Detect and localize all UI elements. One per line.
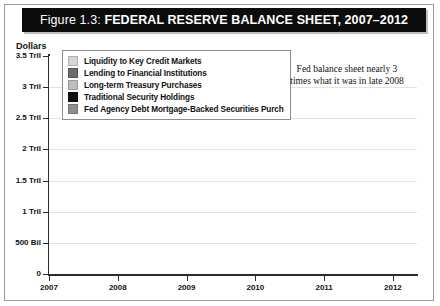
x-axis-label: 2010 — [246, 283, 264, 292]
x-axis-tick — [49, 276, 50, 281]
x-axis-label: 2012 — [384, 283, 402, 292]
y-axis-tick — [43, 56, 49, 57]
figure-number: Figure 1.3: — [40, 13, 101, 27]
y-axis-label: 1.5 Tril — [0, 176, 41, 185]
page-title: Figure 1.3: FEDERAL RESERVE BALANCE SHEE… — [40, 13, 408, 27]
legend-swatch-icon — [68, 56, 78, 66]
gridline — [49, 243, 417, 244]
figure-title-text: FEDERAL RESERVE BALANCE SHEET, 2007–2012 — [104, 13, 408, 27]
y-axis-label-wrap: 500 Bil — [0, 238, 41, 247]
x-axis-label: 2011 — [315, 283, 332, 292]
y-axis-tick — [43, 118, 49, 119]
annotation-line-2: times what it was in late 2008 — [262, 75, 432, 87]
y-axis-label: 2.5 Tril — [0, 113, 41, 122]
x-axis-tick — [324, 276, 325, 281]
y-axis-label-wrap: 1 Tril — [0, 207, 41, 216]
legend-item-label: Fed Agency Debt Mortgage-Backed Securiti… — [84, 105, 284, 114]
legend-item-label: Long-term Treasury Purchases — [84, 81, 202, 90]
y-axis-tick — [43, 87, 49, 88]
y-axis-label: 3.5 Tril — [0, 51, 41, 60]
trend-line — [49, 274, 417, 306]
legend-swatch-icon — [68, 104, 78, 114]
y-axis-title: Dollars — [16, 41, 47, 51]
y-axis-tick — [43, 149, 49, 150]
y-axis-label-wrap: 3.5 Tril — [0, 51, 41, 60]
y-axis-tick — [43, 274, 49, 275]
legend-item[interactable]: Fed Agency Debt Mortgage-Backed Securiti… — [68, 103, 284, 115]
chart-legend: Liquidity to Key Credit MarketsLending t… — [62, 50, 291, 120]
legend-item[interactable]: Traditional Security Holdings — [68, 91, 284, 103]
legend-swatch-icon — [68, 68, 78, 78]
legend-item[interactable]: Long-term Treasury Purchases — [68, 79, 284, 91]
chart-annotation: Fed balance sheet nearly 3 times what it… — [262, 63, 432, 87]
y-axis-label-wrap: 2 Tril — [0, 144, 41, 153]
y-axis-label-wrap: 3 Tril — [0, 82, 41, 91]
x-axis-tick — [393, 276, 394, 281]
x-axis-tick — [187, 276, 188, 281]
x-axis-label: 2009 — [178, 283, 196, 292]
gridline — [49, 149, 417, 150]
y-axis-label: 2 Tril — [0, 144, 41, 153]
y-axis-label-wrap: 0 — [0, 269, 41, 278]
y-axis-label: 500 Bil — [0, 238, 41, 247]
figure-title-bar: Figure 1.3: FEDERAL RESERVE BALANCE SHEE… — [22, 8, 426, 32]
y-axis-tick — [43, 243, 49, 244]
legend-item-label: Liquidity to Key Credit Markets — [84, 57, 201, 66]
x-axis-label: 2007 — [40, 283, 58, 292]
x-axis-tick — [118, 276, 119, 281]
y-axis-tick — [43, 212, 49, 213]
y-axis-label: 1 Tril — [0, 207, 41, 216]
x-axis-label: 2008 — [109, 283, 127, 292]
y-axis-label-wrap: 1.5 Tril — [0, 176, 41, 185]
gridline — [49, 212, 417, 213]
legend-swatch-icon — [68, 80, 78, 90]
y-axis-label: 0 — [0, 269, 41, 278]
legend-item[interactable]: Liquidity to Key Credit Markets — [68, 55, 284, 67]
y-axis-tick — [43, 181, 49, 182]
gridline — [49, 181, 417, 182]
figure-container: Figure 1.3: FEDERAL RESERVE BALANCE SHEE… — [0, 0, 440, 306]
legend-swatch-icon — [68, 92, 78, 102]
legend-item-label: Traditional Security Holdings — [84, 93, 194, 102]
legend-item-label: Lending to Financial Institutions — [84, 69, 207, 78]
y-axis-label-wrap: 2.5 Tril — [0, 113, 41, 122]
legend-item[interactable]: Lending to Financial Institutions — [68, 67, 284, 79]
annotation-line-1: Fed balance sheet nearly 3 — [262, 63, 432, 75]
y-axis-label: 3 Tril — [0, 82, 41, 91]
x-axis-tick — [255, 276, 256, 281]
